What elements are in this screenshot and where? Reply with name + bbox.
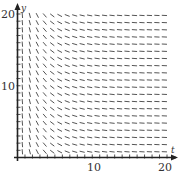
slope-segment — [50, 28, 54, 31]
slope-segment — [95, 22, 100, 23]
slope-segment — [57, 72, 62, 74]
slope-segment — [80, 151, 85, 152]
slope-segment — [87, 65, 92, 66]
slope-segment — [57, 79, 62, 81]
slope-segment — [87, 130, 92, 131]
slope-segment — [36, 56, 38, 61]
slope-segment — [102, 144, 107, 145]
slope-segment — [72, 130, 77, 131]
slope-segment — [95, 151, 100, 152]
slope-segment — [29, 99, 30, 104]
slope-segment — [57, 50, 62, 52]
slope-segment — [29, 149, 30, 154]
slope-segment — [65, 86, 70, 88]
y-axis-arrow-icon — [15, 3, 21, 10]
slope-segment — [57, 129, 62, 131]
slope-segment — [36, 135, 38, 140]
slope-segment — [57, 36, 62, 38]
slope-segment — [102, 65, 107, 66]
slope-segment — [29, 121, 30, 126]
slope-segment — [57, 143, 62, 145]
slope-segment — [65, 93, 70, 95]
slope-segment — [43, 49, 46, 53]
slope-segment — [109, 80, 114, 81]
slope-segment — [29, 13, 30, 18]
slope-segment — [43, 107, 46, 111]
slope-segment — [95, 65, 100, 66]
slope-segment — [72, 144, 77, 145]
slope-segment — [72, 36, 77, 37]
slope-segment — [65, 101, 70, 103]
slope-segment — [102, 151, 107, 152]
slope-segment — [36, 106, 38, 111]
slope-segment — [102, 44, 107, 45]
slope-segment — [43, 64, 46, 68]
slope-segment — [50, 86, 54, 89]
slope-segment — [29, 106, 30, 111]
slope-segment — [36, 149, 38, 154]
slope-segment — [29, 92, 30, 97]
slope-segment — [57, 57, 62, 59]
slope-segment — [43, 100, 46, 104]
slope-segment — [87, 108, 92, 109]
slope-segment — [43, 28, 46, 32]
axis-ticks — [17, 14, 168, 159]
slope-segment — [95, 137, 100, 138]
slope-segment — [80, 51, 85, 52]
slope-segment — [29, 34, 30, 39]
slope-segment — [57, 151, 62, 153]
slope-segment — [57, 86, 62, 88]
slope-segment — [50, 43, 54, 46]
slope-segment — [95, 44, 100, 45]
slope-segment — [95, 94, 100, 95]
slope-segment — [50, 150, 54, 153]
slope-segment — [102, 58, 107, 59]
slope-segment — [72, 94, 77, 95]
slope-segment — [117, 65, 122, 66]
slope-segment — [65, 122, 70, 124]
slope-segment — [72, 137, 77, 138]
slope-segment — [72, 65, 77, 66]
slope-segment — [109, 22, 114, 23]
slope-segment — [57, 122, 62, 124]
slope-segment — [36, 49, 38, 54]
slope-segment — [80, 72, 85, 73]
slope-segment — [102, 87, 107, 88]
slope-segment — [43, 143, 46, 147]
slope-segment — [87, 44, 92, 45]
slope-segment — [36, 35, 38, 40]
slope-segment — [80, 122, 85, 123]
slope-segment — [95, 72, 100, 73]
slope-segment — [29, 56, 30, 61]
slope-segment — [65, 144, 70, 146]
slope-segment — [117, 152, 122, 153]
slope-segment — [95, 115, 100, 116]
slope-segment — [72, 86, 77, 87]
slope-segment — [72, 43, 77, 44]
slope-segment — [80, 58, 85, 59]
slope-segment — [50, 100, 54, 103]
slope-segment — [102, 51, 107, 52]
slope-segment — [109, 137, 114, 138]
slope-segment — [87, 58, 92, 59]
slope-segment — [109, 51, 114, 52]
slope-segment — [65, 22, 70, 24]
slope-segment — [72, 122, 77, 123]
slope-segment — [80, 144, 85, 145]
slope-segment — [36, 92, 38, 97]
slope-segment — [117, 123, 122, 124]
slope-segment — [80, 94, 85, 95]
slope-segment — [80, 137, 85, 138]
slope-segment — [50, 14, 54, 17]
slope-segment — [80, 115, 85, 116]
slope-segment — [102, 80, 107, 81]
slope-segment — [72, 108, 77, 109]
slope-segment — [50, 129, 54, 132]
slope-segment — [43, 13, 46, 17]
slope-segment — [57, 64, 62, 66]
y-tick-label-10: 10 — [1, 80, 15, 93]
slope-segment — [95, 80, 100, 81]
slope-segment — [87, 36, 92, 37]
slope-segment — [43, 121, 46, 125]
slope-segment — [80, 65, 85, 66]
